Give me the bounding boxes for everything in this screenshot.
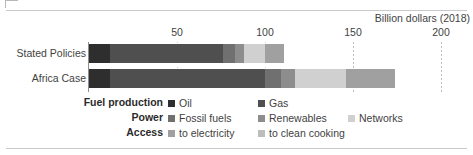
- top-divider: [6, 10, 467, 11]
- legend-item-renewables[interactable]: Renewables: [258, 112, 327, 124]
- legend-swatch-icon: [348, 115, 355, 122]
- bar-stated-policies: [89, 44, 284, 63]
- x-tick-label-100: 100: [245, 26, 285, 38]
- bar-segment-oil: [89, 69, 110, 88]
- gridline-200: [441, 42, 442, 92]
- axis-title: Billion dollars (2018): [330, 12, 470, 24]
- legend-item-to-electricity[interactable]: to electricity: [168, 127, 234, 139]
- legend-item-label: to clean cooking: [269, 127, 345, 139]
- x-tick-label-50: 50: [157, 26, 197, 38]
- legend-swatch-icon: [168, 115, 175, 122]
- bar-segment-fossil-fuels: [223, 44, 235, 63]
- legend-group-label: Power: [60, 111, 163, 123]
- legend-item-gas[interactable]: Gas: [258, 97, 288, 109]
- stacked-bar-chart: Billion dollars (2018) 50100150200 State…: [0, 0, 473, 155]
- legend-item-label: Oil: [179, 97, 192, 109]
- legend-item-networks[interactable]: Networks: [348, 112, 403, 124]
- crop-corner-mark: [5, 0, 18, 8]
- legend-row-fuel-production: Fuel productionOilGas: [0, 96, 473, 111]
- category-label-africa-case: Africa Case: [0, 72, 86, 84]
- legend-item-fossil-fuels[interactable]: Fossil fuels: [168, 112, 232, 124]
- bar-africa-case: [89, 69, 395, 88]
- legend-swatch-icon: [258, 130, 265, 137]
- bar-segment-to-electricity: [346, 69, 395, 88]
- legend-item-label: Networks: [359, 112, 403, 124]
- legend-group-label: Fuel production: [60, 96, 163, 108]
- legend-row-power: PowerFossil fuelsRenewablesNetworks: [0, 111, 473, 126]
- x-axis-tick-labels: 50100150200: [0, 26, 473, 40]
- legend-swatch-icon: [168, 130, 175, 137]
- bottom-divider: [6, 148, 467, 149]
- category-label-stated-policies: Stated Policies: [0, 47, 86, 59]
- legend-group-label: Access: [60, 126, 163, 138]
- legend-item-oil[interactable]: Oil: [168, 97, 192, 109]
- legend-row-access: Accessto electricityto clean cooking: [0, 126, 473, 141]
- bar-segment-oil: [89, 44, 110, 63]
- bar-segment-renewables: [235, 44, 244, 63]
- legend-item-label: to electricity: [179, 127, 234, 139]
- bar-segment-gas: [110, 69, 265, 88]
- bar-segment-to-electricity: [265, 44, 284, 63]
- bar-segment-networks: [244, 44, 265, 63]
- bar-segment-renewables: [281, 69, 295, 88]
- x-tick-label-200: 200: [421, 26, 461, 38]
- legend-item-label: Renewables: [269, 112, 327, 124]
- bar-segment-gas: [110, 44, 223, 63]
- bar-segment-fossil-fuels: [265, 69, 281, 88]
- x-tick-label-150: 150: [333, 26, 373, 38]
- chart-legend: Fuel productionOilGasPowerFossil fuelsRe…: [0, 96, 473, 146]
- legend-item-to-clean-cooking[interactable]: to clean cooking: [258, 127, 345, 139]
- legend-item-label: Gas: [269, 97, 288, 109]
- legend-swatch-icon: [168, 100, 175, 107]
- legend-swatch-icon: [258, 115, 265, 122]
- plot-area: [89, 42, 441, 92]
- legend-swatch-icon: [258, 100, 265, 107]
- legend-item-label: Fossil fuels: [179, 112, 232, 124]
- bar-segment-networks: [295, 69, 346, 88]
